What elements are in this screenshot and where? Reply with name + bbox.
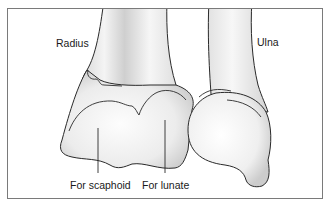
bone-illustration	[0, 0, 331, 206]
label-for-scaphoid: For scaphoid	[70, 180, 131, 191]
label-ulna: Ulna	[257, 37, 279, 48]
ulna-head	[188, 92, 271, 186]
radius-distal-end	[60, 70, 193, 168]
label-radius: Radius	[56, 38, 89, 49]
label-for-lunate: For lunate	[142, 180, 189, 191]
